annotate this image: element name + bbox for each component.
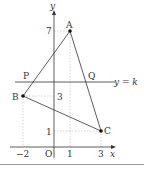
y-tick-7: 7 <box>46 26 52 36</box>
label-c: C <box>104 126 111 136</box>
y-axis-label: y <box>49 1 56 11</box>
x-tick-neg2: −2 <box>16 149 29 159</box>
label-a: A <box>65 20 73 30</box>
label-b: B <box>12 92 19 102</box>
line-label: y = k <box>113 77 138 87</box>
origin-label: O <box>45 149 52 159</box>
triangle-diagram: y x O −2 1 3 7 3 1 A B C P Q y = k <box>0 0 144 175</box>
label-q: Q <box>88 71 95 81</box>
guide-lines <box>23 31 101 147</box>
x-tick-1: 1 <box>67 149 73 159</box>
x-tick-3: 3 <box>98 149 104 159</box>
point-c <box>99 129 103 133</box>
x-axis-label: x <box>110 149 115 159</box>
y-tick-3: 3 <box>57 92 63 102</box>
y-tick-1: 1 <box>46 127 52 137</box>
point-b <box>21 94 25 98</box>
triangle-abc <box>23 31 101 131</box>
label-p: P <box>23 71 29 81</box>
